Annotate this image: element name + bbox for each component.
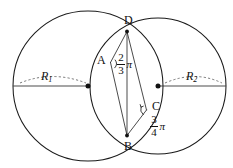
- angle-c-fraction: 3 4: [150, 114, 158, 138]
- geometry-figure: D B A C R1 R2 2 3 π 3 4 π: [0, 0, 233, 168]
- angle-arrow-tip-c: [140, 105, 143, 108]
- label-radius-r1: R1: [41, 70, 52, 84]
- center-dot-circle-2: [156, 84, 161, 89]
- angle-c-pi-symbol: π: [160, 121, 166, 132]
- label-point-a: A: [97, 54, 106, 66]
- angle-label-c: 3 4 π: [150, 114, 165, 138]
- segment-c-to-b: [127, 110, 147, 136]
- vertex-dot-b: [125, 134, 129, 138]
- angle-c-numerator: 3: [150, 114, 158, 126]
- angle-a-fraction: 2 3: [117, 52, 125, 76]
- label-radius-r1-subscript: 1: [48, 75, 52, 84]
- label-point-d: D: [124, 14, 133, 26]
- label-point-b: B: [124, 140, 132, 152]
- label-radius-r2: R2: [186, 70, 197, 84]
- label-point-c: C: [152, 100, 160, 112]
- vertex-dot-d: [125, 30, 129, 34]
- angle-c-denominator: 4: [150, 127, 158, 139]
- angle-label-a: 2 3 π: [117, 52, 132, 76]
- radius-arc-r1: [20, 77, 86, 84]
- center-dot-circle-1: [86, 84, 91, 89]
- angle-arc-marker-c: [141, 107, 144, 115]
- angle-a-numerator: 2: [117, 52, 125, 64]
- angle-a-denominator: 3: [117, 65, 125, 77]
- figure-canvas: [0, 0, 233, 168]
- label-radius-r2-subscript: 2: [193, 75, 197, 84]
- angle-a-pi-symbol: π: [127, 59, 133, 70]
